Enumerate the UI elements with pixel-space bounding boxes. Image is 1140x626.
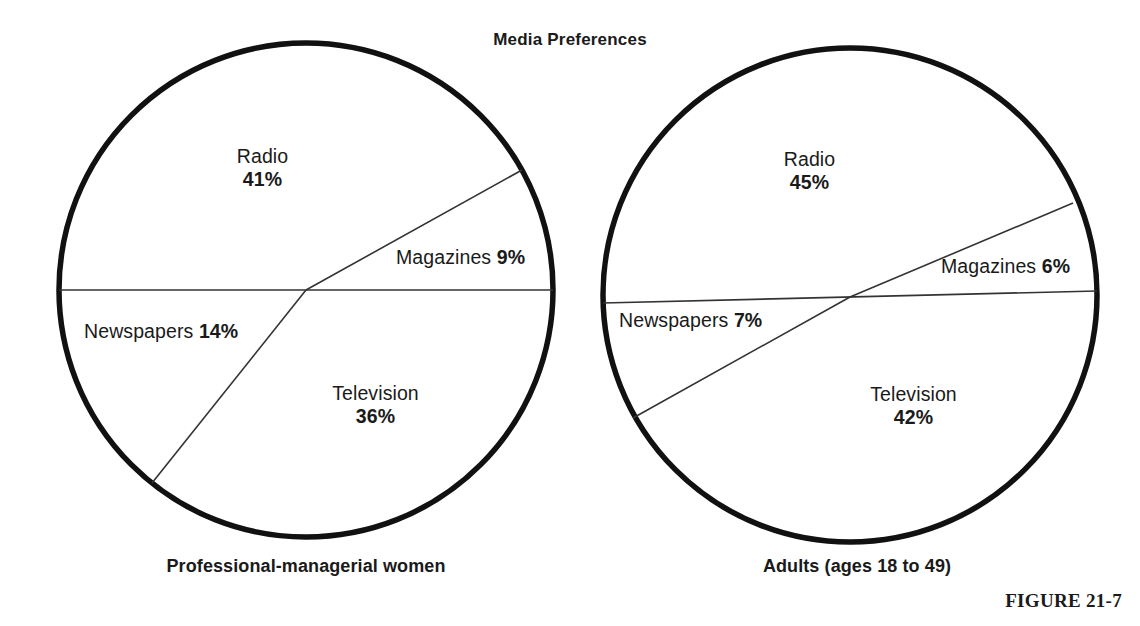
pie-left-label-radio-value: 41% — [205, 168, 320, 191]
pie-left-label-television-name: Television — [332, 382, 419, 404]
pie-right-label-television-name: Television — [870, 383, 957, 405]
pie-right-label-television-value: 42% — [851, 406, 976, 429]
figure-number-label: FIGURE 21-7 — [1005, 590, 1122, 612]
pie-right-label-magazines-value: 6% — [1042, 255, 1070, 277]
pie-left-label-radio-name: Radio — [237, 145, 288, 167]
pie-right-label-radio-value: 45% — [752, 171, 867, 194]
figure-container: Media Preferences Radio 41% Magazines 9%… — [0, 0, 1140, 626]
pie-charts-canvas — [0, 0, 1140, 626]
pie-left-label-newspapers-name: Newspapers — [84, 320, 199, 342]
pie-left-label-newspapers-value: 14% — [199, 320, 238, 342]
pie-right-label-newspapers-name: Newspapers — [619, 309, 734, 331]
pie-left-label-magazines: Magazines 9% — [396, 246, 525, 269]
pie-right-label-television: Television 42% — [851, 383, 976, 430]
pie-right-label-radio: Radio 45% — [752, 148, 867, 195]
pie-left-label-television-value: 36% — [313, 405, 438, 428]
pie-right — [603, 48, 1097, 542]
pie-right-outline — [603, 48, 1097, 542]
pie-left-label-magazines-name: Magazines — [396, 246, 497, 268]
pie-right-label-magazines: Magazines 6% — [941, 255, 1070, 278]
pie-left-label-magazines-value: 9% — [497, 246, 525, 268]
pie-left-caption: Professional-managerial women — [0, 556, 612, 577]
pie-right-label-newspapers-value: 7% — [734, 309, 762, 331]
figure-title: Media Preferences — [0, 30, 1140, 50]
pie-left-label-radio: Radio 41% — [205, 145, 320, 192]
pie-left-label-newspapers: Newspapers 14% — [84, 320, 238, 343]
pie-right-caption: Adults (ages 18 to 49) — [612, 556, 1102, 577]
pie-right-label-magazines-name: Magazines — [941, 255, 1042, 277]
pie-left-label-television: Television 36% — [313, 382, 438, 429]
pie-right-label-radio-name: Radio — [784, 148, 835, 170]
pie-left — [59, 43, 553, 537]
pie-right-label-newspapers: Newspapers 7% — [619, 309, 762, 332]
